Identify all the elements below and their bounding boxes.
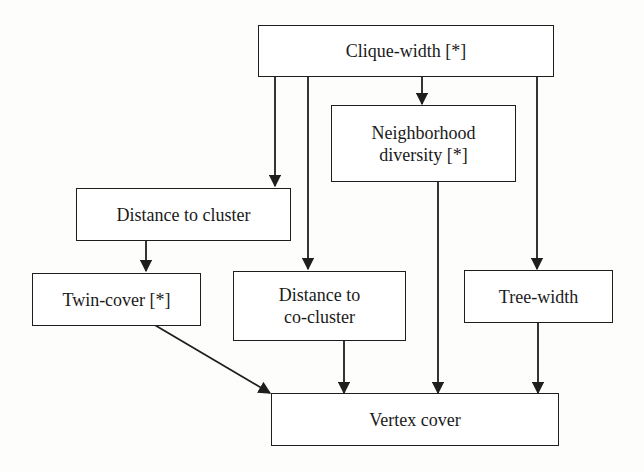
node-clique-width: Clique-width [*] bbox=[258, 25, 554, 77]
node-distance-to-cluster: Distance to cluster bbox=[76, 188, 291, 241]
node-tree-width: Tree-width bbox=[464, 270, 613, 323]
node-distcocluster-label-line2: co-cluster bbox=[284, 306, 355, 328]
node-vertex-cover: Vertex cover bbox=[271, 393, 559, 446]
node-twincover-label: Twin-cover [*] bbox=[62, 289, 170, 311]
node-neighborhood-diversity: Neighborhood diversity [*] bbox=[331, 105, 516, 182]
node-distcluster-label: Distance to cluster bbox=[117, 204, 251, 226]
node-distcocluster-label-line1: Distance to bbox=[279, 284, 360, 306]
node-clique-width-label: Clique-width [*] bbox=[346, 40, 466, 62]
node-vertexcover-label: Vertex cover bbox=[369, 409, 460, 431]
node-nd-label-line2: diversity [*] bbox=[379, 144, 467, 166]
node-nd-label-line1: Neighborhood bbox=[372, 122, 476, 144]
node-treewidth-label: Tree-width bbox=[499, 286, 578, 308]
node-distance-to-cocluster: Distance to co-cluster bbox=[233, 271, 406, 341]
node-twin-cover: Twin-cover [*] bbox=[32, 273, 201, 326]
